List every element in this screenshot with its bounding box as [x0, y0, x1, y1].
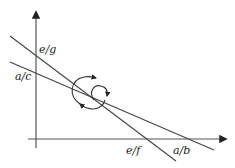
- diagram-canvas: e/g a/c e/f a/b: [0, 0, 235, 168]
- label-e-over-g: e/g: [39, 43, 56, 56]
- rotation-arrows-icon: [72, 77, 107, 109]
- label-e-over-f: e/f: [126, 144, 142, 157]
- label-a-over-c: a/c: [15, 70, 31, 83]
- line-shallow: [10, 62, 214, 150]
- label-a-over-b: a/b: [173, 144, 190, 157]
